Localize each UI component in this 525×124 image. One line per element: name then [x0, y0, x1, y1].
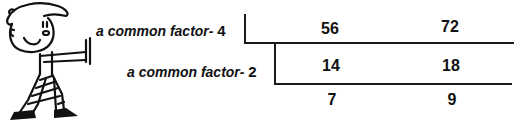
cartoon-boy-icon — [0, 0, 105, 124]
row-2-divisor: 2 — [248, 63, 256, 80]
row-2-vertical-line — [274, 42, 276, 85]
row-1-label-text: a common factor- — [96, 23, 213, 39]
row-1-vertical-line — [244, 14, 246, 43]
row-1-label: a common factor- 4 — [96, 22, 226, 39]
row-1-value-2: 72 — [430, 18, 470, 36]
row-1-divisor: 4 — [217, 22, 225, 39]
row-3-value-2: 9 — [432, 91, 472, 109]
row-1-horizontal-line — [244, 42, 514, 44]
row-2-value-2: 18 — [431, 57, 471, 75]
row-2-horizontal-line — [274, 83, 512, 85]
row-1-value-1: 56 — [310, 20, 350, 38]
row-2-value-1: 14 — [311, 57, 351, 75]
row-3-value-1: 7 — [312, 91, 352, 109]
row-2-label: a common factor- 2 — [127, 63, 257, 80]
row-2-label-text: a common factor- — [127, 64, 244, 80]
